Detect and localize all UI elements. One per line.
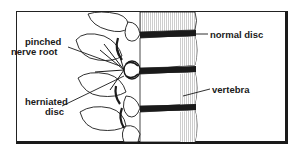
label-nerve-root: nerve root: [11, 47, 57, 57]
label-normal-disc: normal disc: [210, 30, 263, 40]
label-disc: disc: [45, 107, 64, 117]
spine-illustration: [0, 0, 299, 153]
label-vertebra: vertebra: [212, 85, 250, 95]
